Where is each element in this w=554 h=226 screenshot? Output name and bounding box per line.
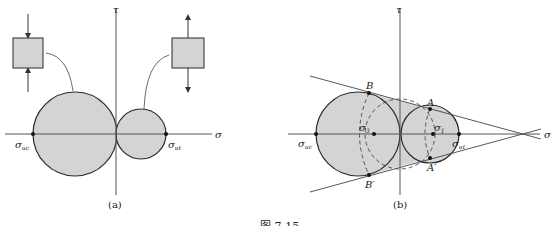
panel-b: τ σ B B′ A A′ σ3 σ1 σuc σut (b) — [288, 4, 552, 210]
tension-leader-line — [144, 55, 169, 109]
sigma-uc-label: σuc — [15, 139, 30, 151]
sigma-ut-label: σut — [168, 139, 182, 151]
point-B-prime — [367, 173, 371, 177]
label-A: A — [426, 97, 434, 108]
figure-number: 图 7-15 — [260, 220, 299, 226]
sigma-ut-point-b — [457, 132, 461, 136]
sigma-label-b: σ — [544, 129, 552, 140]
compression-leader-line — [46, 53, 73, 91]
tension-element-inset — [144, 17, 204, 109]
label-sigma-uc-b: σuc — [298, 138, 313, 150]
tau-label-b: τ — [396, 4, 402, 15]
label-B: B — [365, 80, 373, 91]
label-B-prime: B′ — [364, 179, 375, 190]
sigma-label: σ — [215, 129, 223, 140]
panel-b-caption: (b) — [393, 199, 407, 210]
tension-element-box — [172, 38, 204, 68]
point-A-prime — [428, 156, 432, 160]
tau-label: τ — [113, 4, 119, 15]
point-B — [367, 91, 371, 95]
sigma3-point — [372, 132, 376, 136]
panel-a-caption: (a) — [108, 199, 122, 210]
panel-a: τ σ σuc σut (a) — [5, 4, 223, 210]
sigma-ut-point — [164, 132, 168, 136]
compression-element-inset — [13, 14, 73, 92]
mohr-circle-figure: τ σ σuc σut (a) — [0, 0, 554, 226]
label-A-prime: A′ — [426, 162, 437, 173]
compression-element-box — [13, 38, 43, 68]
sigma-uc-point — [31, 132, 35, 136]
sigma-uc-point-b — [314, 132, 318, 136]
